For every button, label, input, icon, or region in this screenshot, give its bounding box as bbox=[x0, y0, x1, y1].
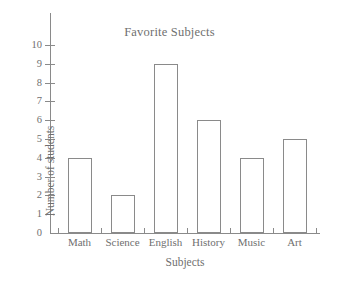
y-axis-tick bbox=[45, 45, 55, 46]
x-axis-category-label: Science bbox=[101, 236, 144, 249]
y-axis-title: Number of students bbox=[44, 91, 56, 251]
x-axis-tick bbox=[58, 228, 59, 234]
bar bbox=[111, 195, 135, 233]
x-axis-category-label: Math bbox=[58, 236, 101, 249]
y-axis-tick-label: 9 bbox=[14, 59, 42, 69]
y-axis-tick-label: 3 bbox=[14, 172, 42, 182]
x-axis-tick bbox=[230, 228, 231, 234]
x-axis-tick bbox=[187, 228, 188, 234]
x-axis-category-label: Art bbox=[273, 236, 316, 249]
x-axis-title: Subjects bbox=[50, 256, 320, 268]
x-axis-category-label: English bbox=[144, 236, 187, 249]
y-axis-tick-label: 1 bbox=[14, 209, 42, 219]
y-axis-tick-label-text: 1 bbox=[16, 209, 42, 219]
y-axis-tick-label-text: 9 bbox=[16, 59, 42, 69]
bar bbox=[283, 139, 307, 233]
y-axis-tick-label-text: 5 bbox=[16, 134, 42, 144]
x-axis-category-label: History bbox=[187, 236, 230, 249]
y-axis-tick-label: 5 bbox=[14, 134, 42, 144]
x-axis-tick bbox=[101, 228, 102, 234]
y-axis-tick bbox=[45, 83, 55, 84]
x-axis-line bbox=[50, 233, 320, 234]
x-axis-category-label: Music bbox=[230, 236, 273, 249]
bar bbox=[68, 158, 92, 233]
y-axis-tick-label-text: 0 bbox=[16, 228, 42, 238]
y-axis-tick-label-text: 4 bbox=[16, 153, 42, 163]
x-axis-tick bbox=[316, 228, 317, 234]
y-axis-tick-label-text: 7 bbox=[16, 96, 42, 106]
y-axis-tick-label-text: 8 bbox=[16, 78, 42, 88]
y-axis-tick bbox=[45, 64, 55, 65]
y-axis-tick-label: 2 bbox=[14, 190, 42, 200]
y-axis-tick-label-text: 3 bbox=[16, 172, 42, 182]
bar-chart: Favorite Subjects 012345678910 MathScien… bbox=[0, 0, 339, 287]
y-axis-tick-label: 6 bbox=[14, 115, 42, 125]
y-axis-tick-label: 7 bbox=[14, 96, 42, 106]
bar bbox=[240, 158, 264, 233]
x-axis-tick bbox=[273, 228, 274, 234]
y-axis-tick-label: 10 bbox=[14, 40, 42, 50]
y-axis-tick-label: 0 bbox=[14, 228, 42, 238]
y-axis-tick-label-text: 10 bbox=[16, 40, 42, 50]
bar bbox=[197, 120, 221, 233]
x-axis-tick bbox=[144, 228, 145, 234]
bar bbox=[154, 64, 178, 233]
y-axis-tick-label-text: 2 bbox=[16, 190, 42, 200]
y-axis-tick-label-text: 6 bbox=[16, 115, 42, 125]
y-axis-tick-label: 8 bbox=[14, 78, 42, 88]
y-axis-tick-label: 4 bbox=[14, 153, 42, 163]
